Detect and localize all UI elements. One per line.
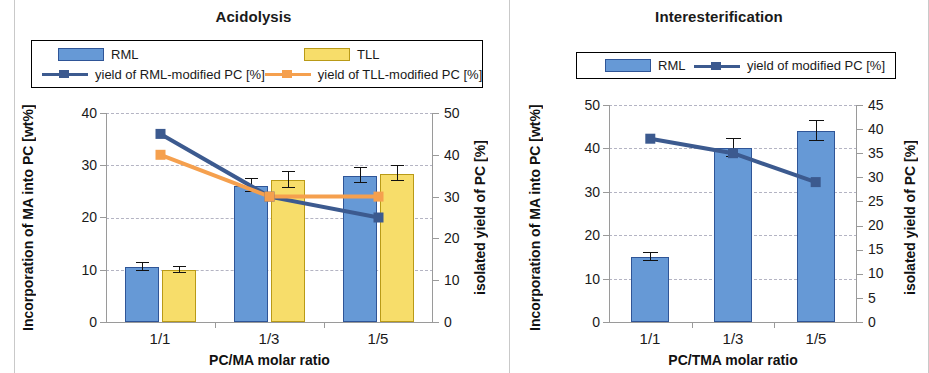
- errorbar-cap-bottom: [136, 270, 149, 271]
- errorbar-rml-1-3: [733, 139, 734, 157]
- errorbar-cap-bottom: [809, 140, 824, 141]
- bar-rml-1-1: [125, 267, 159, 322]
- errorbar-cap-top: [354, 167, 367, 168]
- bar-tll-1-3: [271, 180, 305, 322]
- yaxis-title-right-acidolysis: isolated yield of PC [%]: [471, 105, 489, 330]
- ytick-left-0: 0: [562, 314, 600, 330]
- x-axis-line: [609, 322, 857, 323]
- tickmark-right: [857, 129, 863, 130]
- legend-item-rml: RML: [42, 47, 298, 62]
- errorbar-rml-1-5: [816, 121, 817, 141]
- errorbar-tll-1-3: [288, 172, 289, 188]
- tickmark-left: [100, 113, 106, 114]
- errorbar-cap-top: [173, 266, 186, 267]
- bar-rml-1-3: [234, 186, 268, 322]
- legend-swatch-tll-bar: [304, 48, 350, 61]
- legend-swatch-rml-bar: [58, 48, 104, 61]
- xtick-label-1-1: 1/1: [125, 330, 195, 347]
- bar-tll-1-1: [162, 270, 196, 322]
- ytick-left-10: 10: [59, 262, 97, 278]
- yaxis-title-left-interesterification: Incorporation of MA into PC [wt%]: [526, 100, 544, 335]
- xaxis-title-interesterification: PC/TMA molar ratio: [609, 352, 857, 368]
- ytick-right-20: 20: [868, 217, 900, 233]
- tickmark-left: [100, 217, 106, 218]
- marker-yield: [645, 134, 655, 144]
- tickmark-left: [100, 322, 106, 323]
- chart-title-acidolysis: Acidolysis: [15, 8, 492, 25]
- bar-rml-1-5: [343, 176, 377, 322]
- ytick-right-40: 40: [444, 147, 478, 163]
- ytick-right-20: 20: [444, 230, 478, 246]
- errorbar-cap-top: [282, 171, 295, 172]
- y-axis-line-left: [106, 113, 107, 323]
- ytick-right-0: 0: [444, 314, 478, 330]
- ytick-right-40: 40: [868, 121, 900, 137]
- marker-tll-yield: [156, 150, 166, 160]
- bar-tll-1-5: [380, 174, 414, 322]
- tickmark-left: [603, 322, 609, 323]
- x-axis-line: [106, 322, 433, 323]
- ytick-right-0: 0: [868, 314, 900, 330]
- errorbar-cap-bottom: [354, 182, 367, 183]
- legend-label-yield: yield of modified PC [%]: [747, 58, 885, 73]
- legend-label-tll-yield: yield of TLL-modified PC [%]: [318, 67, 483, 82]
- ytick-left-30: 30: [59, 157, 97, 173]
- tickmark-right: [857, 226, 863, 227]
- tickmark-right: [857, 105, 863, 106]
- tickmark-right: [857, 322, 863, 323]
- legend-row-bars: RML TLL: [42, 44, 472, 64]
- legend-label-rml: RML: [111, 47, 138, 62]
- errorbar-cap-bottom: [245, 191, 258, 192]
- yaxis-title-right-interesterification: isolated yield of PC [%]: [901, 100, 919, 335]
- y-axis-line-right: [432, 113, 433, 323]
- y-axis-line-left: [609, 105, 610, 323]
- errorbar-cap-top: [726, 138, 741, 139]
- tickmark-right: [857, 298, 863, 299]
- ytick-right-35: 35: [868, 145, 900, 161]
- legend-row-lines: yield of RML-modified PC [%] yield of TL…: [42, 64, 472, 84]
- xaxis-title-acidolysis: PC/MA molar ratio: [106, 352, 433, 368]
- gridline: [106, 165, 433, 166]
- errorbar-cap-top: [391, 165, 404, 166]
- ytick-right-45: 45: [868, 97, 900, 113]
- errorbar-cap-top: [245, 178, 258, 179]
- tickmark-right: [857, 201, 863, 202]
- tickmark-left: [603, 148, 609, 149]
- bar-rml-1-3: [714, 148, 752, 322]
- xaxis-separator: [692, 322, 693, 328]
- legend-acidolysis: RML TLL yield of RML-modified PC [%]: [31, 40, 483, 88]
- tickmark-left: [603, 192, 609, 193]
- tickmark-right: [433, 322, 439, 323]
- ytick-left-50: 50: [562, 97, 600, 113]
- xtick-label-1-1: 1/1: [615, 330, 685, 347]
- errorbar-cap-bottom: [282, 187, 295, 188]
- yaxis-title-left-acidolysis: Incorporation of MA into PC [wt%]: [19, 105, 37, 330]
- gridline: [106, 113, 433, 114]
- legend-item-tll: TLL: [298, 47, 379, 62]
- plot-area-acidolysis: [106, 113, 433, 322]
- tickmark-right: [433, 155, 439, 156]
- legend-swatch-tll-line: [265, 68, 311, 80]
- y-axis-line-right: [856, 105, 857, 323]
- xtick-label-1-3: 1/3: [234, 330, 304, 347]
- tickmark-right: [857, 250, 863, 251]
- ytick-right-15: 15: [868, 241, 900, 257]
- errorbar-cap-top: [136, 262, 149, 263]
- ytick-left-40: 40: [59, 105, 97, 121]
- ytick-left-30: 30: [562, 184, 600, 200]
- xaxis-separator: [324, 322, 325, 328]
- errorbar-cap-bottom: [173, 272, 186, 273]
- errorbar-cap-bottom: [643, 260, 658, 261]
- legend-row: RML yield of modified PC [%]: [587, 56, 885, 76]
- ytick-left-20: 20: [562, 227, 600, 243]
- tickmark-right: [857, 153, 863, 154]
- legend-swatch-rml-bar: [605, 59, 651, 72]
- legend-item-rml: RML: [587, 58, 694, 73]
- bar-rml-1-1: [631, 257, 669, 322]
- xaxis-separator: [215, 322, 216, 328]
- errorbar-rml-1-5: [360, 168, 361, 183]
- xtick-label-1-5: 1/5: [781, 330, 851, 347]
- tickmark-left: [100, 270, 106, 271]
- tickmark-right: [433, 113, 439, 114]
- tickmark-right: [857, 274, 863, 275]
